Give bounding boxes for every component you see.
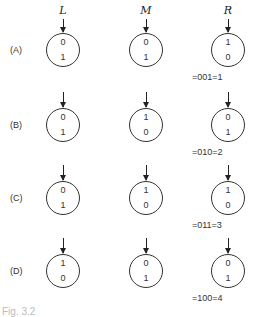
wheel-top-digit: 1	[212, 38, 244, 47]
wheel-top-digit: 0	[47, 113, 79, 122]
row-label: (D)	[10, 266, 23, 276]
down-arrow-icon	[146, 19, 147, 32]
down-arrow-icon	[146, 92, 147, 107]
column-label-m: M	[140, 4, 151, 17]
wheel-top-digit: 0	[130, 38, 162, 47]
wheel-bottom-digit: 0	[212, 53, 244, 62]
figure-caption: Fig. 3.2	[2, 306, 35, 317]
wheel-bottom-digit: 1	[212, 128, 244, 137]
down-arrow-icon	[228, 19, 229, 32]
wheel-top-digit: 0	[130, 259, 162, 268]
down-arrow-icon	[146, 165, 147, 180]
down-arrow-icon	[228, 238, 229, 253]
wheel-l: 10	[46, 254, 80, 288]
wheel-l: 01	[46, 33, 80, 67]
wheel-bottom-digit: 1	[47, 128, 79, 137]
wheel-bottom-digit: 0	[47, 274, 79, 283]
wheel-bottom-digit: 0	[212, 201, 244, 210]
wheel-r: 01	[211, 108, 245, 142]
down-arrow-icon	[63, 19, 64, 32]
wheel-top-digit: 0	[212, 113, 244, 122]
row-label: (C)	[10, 193, 23, 203]
wheel-m: 10	[129, 181, 163, 215]
wheel-l: 01	[46, 108, 80, 142]
row-label: (A)	[10, 45, 22, 55]
down-arrow-icon	[228, 165, 229, 180]
wheel-top-digit: 1	[130, 186, 162, 195]
wheel-bottom-digit: 0	[130, 128, 162, 137]
wheel-top-digit: 1	[212, 186, 244, 195]
wheel-bottom-digit: 0	[130, 201, 162, 210]
wheel-r: 10	[211, 33, 245, 67]
down-arrow-icon	[63, 238, 64, 253]
state-equation: =001=1	[192, 72, 223, 82]
down-arrow-icon	[146, 238, 147, 253]
wheel-l: 01	[46, 181, 80, 215]
wheel-top-digit: 0	[47, 186, 79, 195]
wheel-top-digit: 0	[212, 259, 244, 268]
down-arrow-icon	[228, 92, 229, 107]
wheel-top-digit: 0	[47, 38, 79, 47]
wheel-m: 01	[129, 33, 163, 67]
wheel-r: 10	[211, 181, 245, 215]
row-label: (B)	[10, 120, 22, 130]
wheel-bottom-digit: 1	[130, 274, 162, 283]
state-equation: =100=4	[192, 293, 223, 303]
wheel-top-digit: 1	[130, 113, 162, 122]
state-equation: =010=2	[192, 147, 223, 157]
down-arrow-icon	[63, 165, 64, 180]
column-label-r: R	[224, 4, 232, 17]
wheel-bottom-digit: 1	[47, 201, 79, 210]
wheel-r: 01	[211, 254, 245, 288]
wheel-m: 01	[129, 254, 163, 288]
wheel-bottom-digit: 1	[212, 274, 244, 283]
state-equation: =011=3	[192, 220, 222, 230]
column-label-l: L	[59, 4, 66, 17]
wheel-bottom-digit: 1	[130, 53, 162, 62]
wheel-bottom-digit: 1	[47, 53, 79, 62]
wheel-top-digit: 1	[47, 259, 79, 268]
wheel-m: 10	[129, 108, 163, 142]
down-arrow-icon	[63, 92, 64, 107]
